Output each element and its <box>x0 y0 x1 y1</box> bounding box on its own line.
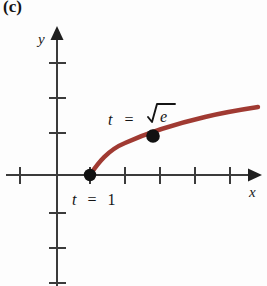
radicand-e: e <box>160 108 167 125</box>
y-axis-arrowhead-icon <box>51 26 64 40</box>
t-equals-1-var: t <box>72 191 77 208</box>
point-t-equals-sqrt-e <box>146 129 160 143</box>
t-equals-sqrt-e-label: t = e <box>108 104 175 128</box>
svg-text:t =: t = <box>108 111 133 128</box>
plot-canvas: y x t = 1 t = e <box>0 0 267 286</box>
x-axis-label: x <box>248 184 256 200</box>
t-equals-sqrt-e-var: t <box>108 111 113 128</box>
figure-panel-c: (c) <box>0 0 267 286</box>
svg-text:t = 1: t = 1 <box>72 191 115 208</box>
y-axis-label: y <box>36 31 45 47</box>
x-axis-arrowhead-icon <box>248 169 262 182</box>
t-equals-1-label: t = 1 <box>72 191 115 208</box>
point-t-equals-1 <box>84 169 96 181</box>
t-equals-1-op: = <box>87 191 96 208</box>
t-equals-sqrt-e-op: = <box>124 111 133 128</box>
t-equals-1-value: 1 <box>107 191 115 208</box>
